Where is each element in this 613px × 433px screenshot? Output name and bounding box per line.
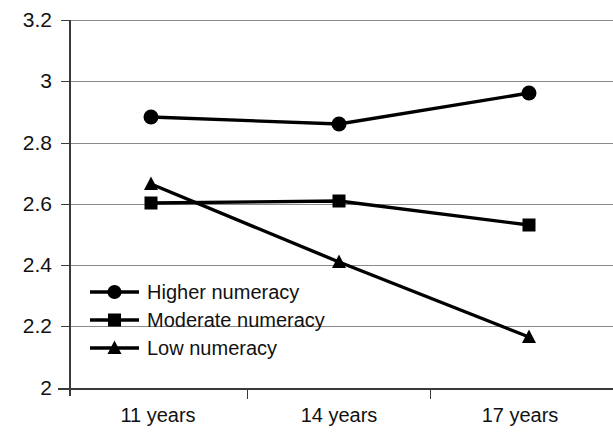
circle-marker: [522, 86, 537, 101]
triangle-marker: [144, 177, 158, 191]
y-tick-label: 2.6: [0, 193, 52, 214]
y-tick-label: 3.2: [0, 9, 52, 30]
circle-marker: [144, 110, 159, 125]
y-tick-label: 2: [0, 377, 52, 398]
legend-item-higher-numeracy: Higher numeracy: [147, 282, 299, 302]
plot-area: [0, 0, 613, 433]
circle-marker: [332, 117, 347, 132]
x-tick-marks: [248, 388, 431, 399]
square-marker: [145, 197, 158, 210]
y-tick-label: 2.4: [0, 254, 52, 275]
y-tick-label: 2.2: [0, 315, 52, 336]
square-marker: [523, 219, 536, 232]
square-marker: [108, 314, 121, 327]
legend-markers: [90, 285, 139, 354]
legend-item-moderate-numeracy: Moderate numeracy: [147, 310, 325, 330]
x-tick-label: 14 years: [279, 405, 399, 425]
y-tick-label: 3: [0, 70, 52, 91]
line-chart: 3.2 3 2.8 2.6 2.4 2.2 2 11 years 14 year…: [0, 0, 613, 433]
series-moderate-numeracy: [145, 195, 536, 232]
series-higher-numeracy: [144, 86, 537, 132]
legend-item-low-numeracy: Low numeracy: [147, 338, 277, 358]
y-tick-label: 2.8: [0, 132, 52, 153]
y-tick-marks: [61, 21, 69, 389]
x-tick-label: 11 years: [98, 405, 218, 425]
x-tick-label: 17 years: [460, 405, 580, 425]
square-marker: [333, 195, 346, 208]
circle-marker: [108, 285, 122, 299]
